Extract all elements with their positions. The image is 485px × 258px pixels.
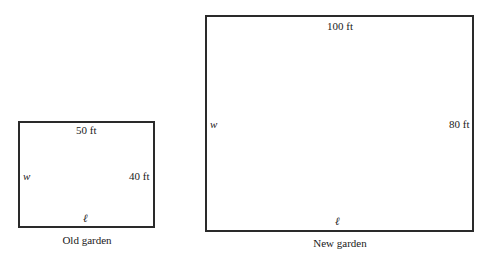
new-garden-length-variable: ℓ [335, 215, 340, 227]
new-garden-width-value: 80 ft [449, 118, 469, 130]
new-garden-rectangle [205, 15, 474, 232]
old-garden-length-variable: ℓ [83, 212, 88, 224]
new-garden-length-value: 100 ft [327, 20, 353, 32]
new-garden-width-variable: w [210, 118, 217, 130]
old-garden-length-value: 50 ft [76, 124, 96, 136]
old-garden-caption: Old garden [56, 234, 118, 246]
new-garden-caption: New garden [306, 237, 374, 249]
old-garden-width-value: 40 ft [129, 170, 149, 182]
old-garden-width-variable: w [23, 170, 30, 182]
